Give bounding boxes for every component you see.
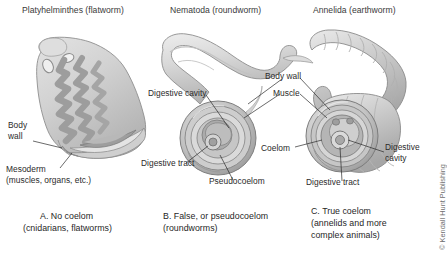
panel-a-heading: Platyhelminthes (flatworm) — [22, 5, 124, 15]
caption-c-line2: (annelids and more — [311, 218, 387, 229]
caption-c-line1: C. True coelom — [311, 206, 371, 217]
roundworm-illustration — [162, 34, 313, 175]
label-coelom: Coelom — [261, 143, 290, 153]
label-digestive-cavity-c-line2: cavity — [385, 153, 407, 163]
flatworm-illustration — [37, 37, 146, 158]
panel-b-heading: Nematoda (roundworm) — [170, 5, 261, 15]
label-body-wall-a-line2: wall — [8, 131, 23, 141]
label-digestive-cavity-b: Digestive cavity — [148, 88, 207, 98]
panel-c-heading: Annelida (earthworm) — [313, 5, 396, 15]
caption-b-line1: B. False, or pseudocoelom — [163, 211, 268, 222]
label-mesoderm-line1: Mesoderm — [6, 164, 46, 174]
caption-a-line2: (cnidarians, flatworms) — [23, 223, 112, 234]
label-digestive-tract-b: Digestive tract — [141, 158, 194, 168]
publisher-credit: © Kendall Hunt Publishing — [438, 164, 447, 250]
label-body-wall-a-line1: Body — [8, 120, 27, 130]
invertebrate-body-cavity-figure: Platyhelminthes (flatworm) Body wall Mes… — [0, 0, 447, 254]
label-mesoderm-line2: (muscles, organs, etc.) — [6, 175, 91, 185]
caption-c-line3: complex animals) — [311, 230, 380, 241]
label-digestive-tract-c: Digestive tract — [306, 177, 359, 187]
label-pseudocoelom: Pseudocoelom — [209, 176, 265, 186]
caption-b-line2: (roundworms) — [163, 223, 218, 234]
label-body-wall-b: Body wall — [265, 71, 301, 81]
label-digestive-cavity-c-line1: Digestive — [385, 142, 420, 152]
caption-a-line1: A. No coelom — [40, 211, 93, 222]
label-muscle: Muscle — [273, 88, 300, 98]
